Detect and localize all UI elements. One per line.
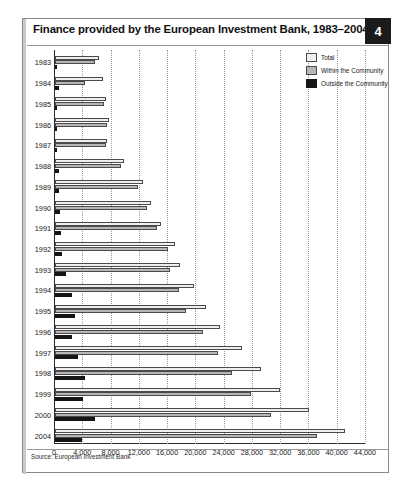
bar-1997-total (55, 346, 242, 350)
bar-1987-total (55, 139, 107, 143)
y-axis-label-2000: 2000 (35, 410, 51, 419)
bar-2000-total (55, 408, 309, 412)
y-axis-label-1996: 1996 (35, 327, 51, 336)
bar-1983-outside (55, 65, 57, 69)
bar-group-1991: 1991 (55, 222, 366, 235)
bar-1992-within (55, 247, 168, 251)
bar-group-1983: 1983 (55, 56, 366, 69)
bar-1987-outside (55, 148, 57, 152)
bar-1990-outside (55, 210, 60, 214)
bar-1986-within (55, 123, 107, 127)
bar-1996-outside (55, 335, 72, 339)
bar-group-1988: 1988 (55, 159, 366, 172)
bar-1990-total (55, 201, 151, 205)
title-bar: Finance provided by the European Investm… (27, 19, 390, 45)
bar-2000-outside (55, 417, 95, 421)
bar-1989-total (55, 180, 143, 184)
bar-group-1986: 1986 (55, 118, 366, 131)
bar-1994-total (55, 284, 194, 288)
legend-label-total: Total (321, 52, 335, 63)
bar-1992-total (55, 242, 175, 246)
bar-1988-total (55, 159, 124, 163)
title-divider (27, 45, 389, 46)
chart-plot-area: 1983198419851986198719881989199019911992… (54, 50, 365, 444)
y-axis-label-1991: 1991 (35, 224, 51, 233)
bar-2000-within (55, 413, 271, 417)
bar-group-1997: 1997 (55, 346, 366, 359)
legend-swatch-icon-total (306, 53, 317, 62)
bar-1997-outside (55, 355, 78, 359)
bar-group-1992: 1992 (55, 242, 366, 255)
bar-group-1995: 1995 (55, 305, 366, 318)
bar-1997-within (55, 351, 218, 355)
bar-group-2004: 2004 (55, 429, 366, 442)
bar-2004-within (55, 434, 317, 438)
bar-1993-total (55, 263, 180, 267)
bar-1984-total (55, 77, 103, 81)
bar-group-1990: 1990 (55, 201, 366, 214)
y-axis-label-2004: 2004 (35, 431, 51, 440)
bar-1986-outside (55, 127, 57, 131)
bar-1999-within (55, 392, 251, 396)
bar-1994-outside (55, 293, 72, 297)
y-axis-label-1986: 1986 (35, 120, 51, 129)
bar-group-1999: 1999 (55, 388, 366, 401)
bar-2004-outside (55, 438, 82, 442)
chart-canvas: 1983198419851986198719881989199019911992… (54, 50, 365, 444)
bar-group-2000: 2000 (55, 408, 366, 421)
y-axis-label-1984: 1984 (35, 79, 51, 88)
bar-1999-total (55, 388, 280, 392)
y-axis-label-1992: 1992 (35, 244, 51, 253)
bar-1995-within (55, 309, 186, 313)
y-axis-label-1988: 1988 (35, 162, 51, 171)
bar-1989-within (55, 185, 138, 189)
bar-group-1996: 1996 (55, 325, 366, 338)
figure-number-badge: 4 (365, 18, 391, 44)
y-axis-label-1985: 1985 (35, 99, 51, 108)
bar-1983-within (55, 60, 95, 64)
bar-1984-within (55, 81, 85, 85)
source-note: Source: European Investment Bank (31, 453, 130, 460)
source-divider (27, 449, 389, 450)
legend-label-outside: Outside the Community (321, 78, 388, 89)
figure-left-rule (23, 19, 26, 474)
bar-1991-within (55, 226, 157, 230)
bar-1989-outside (55, 189, 59, 193)
bar-1996-within (55, 330, 203, 334)
legend-swatch-icon-within (306, 66, 317, 75)
bar-1995-outside (55, 314, 75, 318)
y-axis-label-1998: 1998 (35, 369, 51, 378)
figure-panel: Finance provided by the European Investm… (22, 18, 389, 473)
bar-1985-within (55, 102, 104, 106)
bar-1996-total (55, 325, 220, 329)
bar-1999-outside (55, 397, 83, 401)
y-axis-label-1993: 1993 (35, 265, 51, 274)
bar-1985-outside (55, 106, 57, 110)
y-axis-label-1987: 1987 (35, 141, 51, 150)
bar-1995-total (55, 305, 206, 309)
bar-group-1984: 1984 (55, 77, 366, 90)
y-axis-label-1990: 1990 (35, 203, 51, 212)
bar-group-1994: 1994 (55, 284, 366, 297)
x-axis-line (54, 443, 365, 444)
bar-1983-total (55, 56, 99, 60)
bar-1998-within (55, 371, 232, 375)
bar-group-1987: 1987 (55, 139, 366, 152)
y-axis-label-1983: 1983 (35, 58, 51, 67)
y-axis-label-1997: 1997 (35, 348, 51, 357)
bar-1987-within (55, 143, 106, 147)
bar-1984-outside (55, 86, 59, 90)
bar-1998-outside (55, 376, 85, 380)
bar-1998-total (55, 367, 261, 371)
bar-1990-within (55, 206, 147, 210)
y-axis-label-1994: 1994 (35, 286, 51, 295)
bar-group-1993: 1993 (55, 263, 366, 276)
y-axis-label-1999: 1999 (35, 390, 51, 399)
y-axis-label-1995: 1995 (35, 307, 51, 316)
bar-1993-within (55, 268, 170, 272)
page-title: Finance provided by the European Investm… (33, 23, 369, 35)
bar-1991-outside (55, 231, 61, 235)
bar-group-1985: 1985 (55, 97, 366, 110)
bar-group-1998: 1998 (55, 367, 366, 380)
bar-1993-outside (55, 272, 66, 276)
